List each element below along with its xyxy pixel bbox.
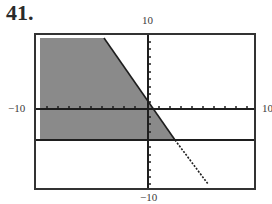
y-max-label: 10	[142, 14, 153, 26]
graph-window	[0, 0, 272, 204]
x-max-label: 10	[262, 102, 272, 114]
x-min-label: −10	[8, 102, 25, 114]
shaded-region	[40, 38, 175, 140]
slanted-boundary-line-dashed	[175, 140, 208, 184]
y-min-label: −10	[140, 191, 157, 203]
